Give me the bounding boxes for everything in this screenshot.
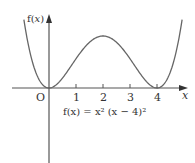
origin-label: O [36,91,45,104]
x-axis-tick-labels: 1234 [73,91,161,104]
formula-label: f(x) = x² (x − 4)² [63,106,146,117]
x-axis-label: x [182,89,189,102]
x-tick-label: 2 [100,91,107,104]
y-axis-label: f(x) [27,13,44,24]
x-tick-label: 1 [73,91,80,104]
x-tick-label: 3 [127,91,134,104]
x-tick-label: 4 [154,91,161,104]
function-curve [24,20,182,88]
function-graph: 1234 O x f(x) f(x) = x² (x − 4)² [0,0,195,163]
y-axis-arrow-icon [46,14,52,23]
y-axis-label-close: ) [40,13,44,24]
y-axis-label-f: f( [27,13,35,24]
